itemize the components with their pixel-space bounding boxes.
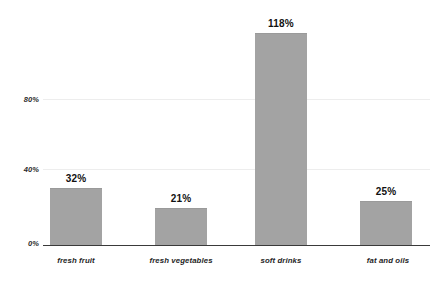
x-tick-label-fat-and-oils: fat and oils	[367, 256, 409, 265]
plot-area: 32% 21% 118% 25%	[43, 0, 430, 245]
y-axis: 80% 40% 0%	[0, 0, 39, 245]
x-axis: fresh fruit fresh vegetables soft drinks…	[43, 247, 430, 277]
bar-value-label: 25%	[376, 186, 397, 197]
bar-group-fat-and-oils[interactable]: 25%	[360, 0, 412, 245]
bar-rect[interactable]	[50, 188, 102, 245]
bar-rect[interactable]	[155, 208, 207, 245]
bar-value-label: 118%	[268, 18, 294, 29]
x-axis-line	[43, 245, 430, 246]
x-tick-label-fresh-fruit: fresh fruit	[57, 256, 95, 265]
bar-group-fresh-fruit[interactable]: 32%	[50, 0, 102, 245]
bar-value-label: 32%	[66, 173, 87, 184]
x-tick-label-fresh-vegetables: fresh vegetables	[149, 256, 212, 265]
y-tick-label-0: 0%	[28, 239, 39, 248]
bar-group-fresh-vegetables[interactable]: 21%	[155, 0, 207, 245]
x-tick-label-soft-drinks: soft drinks	[261, 256, 302, 265]
bar-chart: 80% 40% 0% 32% 21% 118% 25% fresh fruit …	[0, 0, 437, 282]
y-tick-label-40: 40%	[24, 165, 39, 174]
bar-rect[interactable]	[360, 201, 412, 245]
bar-value-label: 21%	[171, 193, 192, 204]
bar-rect[interactable]	[255, 33, 307, 245]
bar-group-soft-drinks[interactable]: 118%	[255, 0, 307, 245]
y-tick-label-80: 80%	[24, 95, 39, 104]
